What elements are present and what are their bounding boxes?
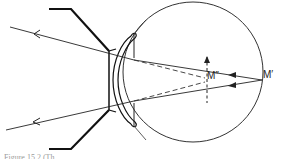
figure-caption: Figure 15.2 (Th...	[4, 153, 60, 159]
eyeball-circle	[123, 2, 263, 142]
image-point-label: M″	[207, 71, 219, 81]
lower-frame	[49, 110, 109, 149]
optics-diagram	[0, 0, 281, 159]
upper-flange	[109, 49, 116, 51]
upper-inner-arrow-icon	[228, 72, 236, 78]
image-up-arrow-icon	[204, 56, 210, 63]
lower-inner-ray	[134, 80, 262, 101]
upper-inner-ray	[134, 60, 262, 80]
lower-tangent-line	[134, 126, 146, 140]
lower-exit-ray	[6, 101, 134, 130]
upper-tangent-line	[134, 20, 146, 34]
upper-exit-ray	[10, 27, 134, 60]
far-point-label: M′	[263, 70, 273, 80]
upper-frame	[49, 9, 109, 51]
lower-flange	[109, 110, 116, 112]
